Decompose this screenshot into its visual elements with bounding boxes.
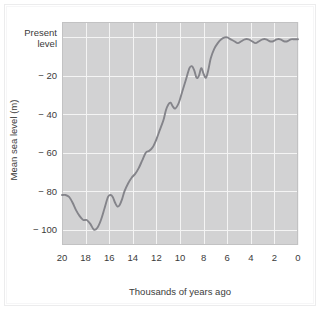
- x-tick-label: 12: [151, 252, 162, 263]
- figure-container: Presentlevel− 20− 40− 60− 80− 100 201816…: [0, 0, 322, 312]
- y-tick-label: − 20: [38, 70, 57, 81]
- y-tick-label: − 100: [33, 224, 57, 235]
- x-tick-label: 2: [272, 252, 277, 263]
- x-tick-label: 10: [175, 252, 186, 263]
- sea-level-chart: Presentlevel− 20− 40− 60− 80− 100 201816…: [0, 0, 322, 312]
- x-axis-tick-labels: 20181614121086420: [57, 252, 301, 263]
- x-tick-label: 4: [248, 252, 253, 263]
- y-tick-label: − 40: [38, 109, 57, 120]
- y-tick-label: level: [37, 38, 57, 49]
- y-tick-label: − 80: [38, 186, 57, 197]
- y-axis-tick-labels: Presentlevel− 20− 40− 60− 80− 100: [24, 27, 57, 235]
- x-tick-label: 6: [225, 252, 230, 263]
- y-axis-title: Mean sea level (m): [8, 100, 19, 181]
- x-tick-label: 8: [201, 252, 206, 263]
- x-tick-label: 18: [80, 252, 91, 263]
- y-tick-label: Present: [24, 27, 57, 38]
- y-tick-label: − 60: [38, 147, 57, 158]
- x-tick-label: 0: [295, 252, 300, 263]
- x-tick-label: 14: [128, 252, 139, 263]
- x-axis-title: Thousands of years ago: [129, 286, 231, 297]
- x-tick-label: 20: [57, 252, 68, 263]
- x-tick-label: 16: [104, 252, 115, 263]
